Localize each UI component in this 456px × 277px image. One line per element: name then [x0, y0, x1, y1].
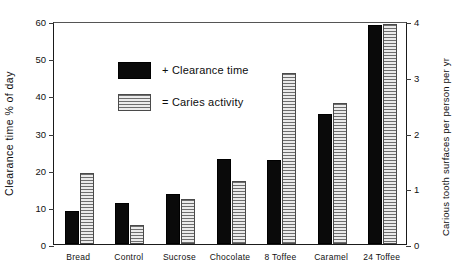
x-axis-category-label: 24 Toffee — [363, 252, 400, 262]
bar-caries-activity — [80, 173, 94, 244]
y-axis-left-tick — [49, 97, 54, 98]
y-axis-left-tick — [49, 209, 54, 210]
bar-group — [65, 23, 94, 244]
legend-item-label: + Clearance time — [162, 64, 249, 76]
x-axis-category-label: Control — [114, 252, 143, 262]
y-axis-left-tick — [49, 135, 54, 136]
bar-group — [267, 23, 296, 244]
y-axis-right-tick-label: 3 — [414, 74, 419, 84]
y-axis-right-tick — [406, 135, 411, 136]
bar-clearance-time — [267, 160, 281, 244]
x-axis-category-label: Chocolate — [210, 252, 251, 262]
x-axis-category-label: Bread — [66, 252, 90, 262]
plot-area: 0102030405060 01234 + Clearance time= Ca… — [53, 22, 407, 245]
y-axis-left-tick-label: 40 — [35, 93, 46, 103]
y-axis-left-tick-label: 30 — [35, 130, 46, 140]
bar-clearance-time — [368, 25, 382, 244]
y-axis-left-tick — [49, 246, 54, 247]
legend-item-label: = Caries activity — [162, 96, 243, 108]
legend-item: = Caries activity — [118, 91, 249, 113]
bar-group — [217, 23, 246, 244]
bar-group — [368, 23, 397, 244]
y-axis-left-tick-label: 20 — [35, 167, 46, 177]
y-axis-right-tick — [406, 246, 411, 247]
bar-caries-activity — [130, 225, 144, 244]
y-axis-left-tick-label: 50 — [35, 55, 46, 65]
bar-clearance-time — [217, 159, 231, 244]
y-axis-left-tick-label: 0 — [41, 241, 46, 251]
y-axis-right-tick-label: 1 — [414, 186, 419, 196]
y-axis-right-tick-label: 4 — [414, 18, 419, 28]
y-axis-left-tick — [49, 60, 54, 61]
bar-caries-activity — [181, 199, 195, 244]
x-axis-category-label: Caramel — [314, 252, 348, 262]
striped-gray-swatch — [118, 94, 151, 111]
x-axis-category-label: 8 Toffee — [265, 252, 297, 262]
y-axis-label-right: Carious tooth surfaces per person per yr — [440, 22, 454, 272]
bar-clearance-time — [115, 203, 129, 244]
y-axis-right-tick — [406, 23, 411, 24]
y-axis-left-tick-label: 60 — [35, 18, 46, 28]
y-axis-left-tick — [49, 23, 54, 24]
y-axis-right-tick-label: 2 — [414, 130, 419, 140]
bar-caries-activity — [282, 73, 296, 244]
bar-group — [166, 23, 195, 244]
bar-group — [318, 23, 347, 244]
bar-clearance-time — [65, 211, 79, 244]
y-axis-left-tick-label: 10 — [35, 204, 46, 214]
y-axis-right-tick-label: 0 — [414, 241, 419, 251]
bar-caries-activity — [232, 181, 246, 244]
chart-legend: + Clearance time= Caries activity — [118, 59, 249, 123]
bar-caries-activity — [333, 103, 347, 244]
bar-clearance-time — [318, 114, 332, 244]
bar-clearance-time — [166, 194, 180, 244]
y-axis-right-tick — [406, 79, 411, 80]
y-axis-left-tick — [49, 172, 54, 173]
bar-caries-activity — [383, 24, 397, 244]
y-axis-label-left: Clearance time % of day — [3, 22, 17, 245]
bar-chart-figure: Clearance time % of day Carious tooth su… — [0, 0, 456, 277]
legend-item: + Clearance time — [118, 59, 249, 81]
x-axis-category-label: Sucrose — [163, 252, 196, 262]
solid-black-swatch — [118, 62, 151, 79]
bar-group — [115, 23, 144, 244]
y-axis-right-tick — [406, 190, 411, 191]
